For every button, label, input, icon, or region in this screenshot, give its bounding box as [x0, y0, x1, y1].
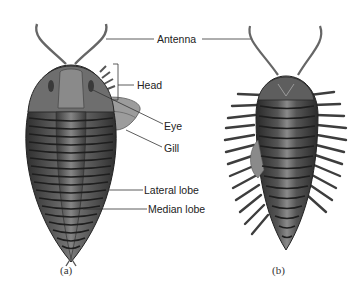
label-gill: Gill — [164, 142, 179, 154]
label-median-lobe: Median lobe — [148, 203, 205, 215]
caption-a: (a) — [60, 264, 72, 276]
trilobite-ventral — [225, 26, 346, 250]
label-antenna: Antenna — [157, 33, 196, 45]
trilobite-dorsal — [26, 24, 140, 266]
label-eye: Eye — [164, 120, 182, 132]
label-lateral-lobe: Lateral lobe — [144, 184, 199, 196]
caption-b: (b) — [272, 264, 285, 276]
label-head: Head — [137, 79, 162, 91]
